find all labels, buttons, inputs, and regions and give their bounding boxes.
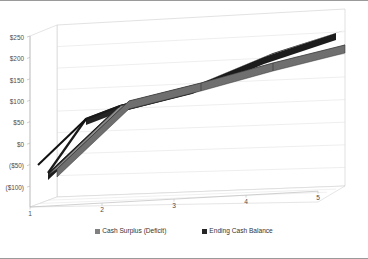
y-tick-label: ($100) <box>0 184 24 191</box>
legend-item-ending-cash-balance[interactable]: Ending Cash Balance <box>202 227 272 235</box>
x-tick-label: 4 <box>239 198 253 205</box>
x-tick-label: 1 <box>23 210 37 217</box>
y-tick-label: $200 <box>0 55 24 62</box>
y-tick-label: ($50) <box>0 162 24 169</box>
legend-swatch-icon <box>95 229 100 234</box>
y-axis-ticks <box>27 36 30 187</box>
y-tick-label: $250 <box>0 34 24 41</box>
legend-label: Cash Surplus (Deficit) <box>102 227 166 235</box>
left-side-wall <box>30 25 57 207</box>
legend-label: Ending Cash Balance <box>209 227 272 235</box>
y-tick-label: $150 <box>0 77 24 84</box>
y-tick-label: $0 <box>0 141 24 148</box>
y-tick-label: $100 <box>0 98 24 105</box>
y-tick-label: $50 <box>0 119 24 126</box>
chart-legend: Cash Surplus (Deficit) Ending Cash Balan… <box>0 227 368 235</box>
x-tick-label: 3 <box>167 202 181 209</box>
x-tick-label: 2 <box>95 206 109 213</box>
chart-card: $250 $200 $150 $100 $50 $0 ($50) ($100) … <box>0 0 368 259</box>
legend-swatch-icon <box>202 229 207 234</box>
chart-plot-area <box>0 1 368 259</box>
x-tick-label: 5 <box>311 194 325 201</box>
legend-item-cash-surplus[interactable]: Cash Surplus (Deficit) <box>95 227 166 235</box>
